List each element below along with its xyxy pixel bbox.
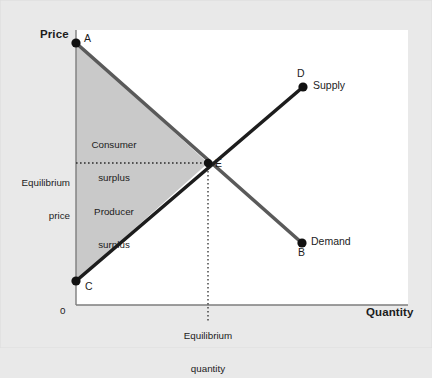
point-c-label: C xyxy=(85,281,93,293)
consumer-surplus-line-2: surplus xyxy=(75,173,153,184)
point-a-marker xyxy=(71,38,80,47)
point-e-label: E xyxy=(215,158,222,170)
supply-curve-label: Supply xyxy=(313,80,345,92)
producer-surplus-line-1: Producer xyxy=(75,207,153,218)
point-a-label: A xyxy=(84,33,91,45)
point-c-marker xyxy=(71,276,80,285)
equilibrium-price-line-1: Equilibrium xyxy=(0,178,70,189)
equilibrium-quantity-line-2: quantity xyxy=(148,364,268,375)
point-d-label: D xyxy=(297,68,305,80)
producer-surplus-label: Producer surplus xyxy=(75,185,153,273)
y-axis-label: Price xyxy=(40,28,69,41)
point-e-marker xyxy=(204,159,212,167)
equilibrium-quantity-line-1: Equilibrium xyxy=(148,331,268,342)
equilibrium-price-label: Equilibrium price xyxy=(0,156,70,244)
consumer-surplus-line-1: Consumer xyxy=(75,140,153,151)
point-d-marker xyxy=(298,82,307,91)
demand-curve-label: Demand xyxy=(311,236,351,248)
origin-label: 0 xyxy=(60,306,65,317)
equilibrium-quantity-label: Equilibrium quantity xyxy=(148,309,268,378)
producer-surplus-line-2: surplus xyxy=(75,240,153,251)
equilibrium-price-line-2: price xyxy=(0,211,70,222)
point-b-label: B xyxy=(298,247,305,259)
x-axis-label: Quantity xyxy=(366,306,413,319)
